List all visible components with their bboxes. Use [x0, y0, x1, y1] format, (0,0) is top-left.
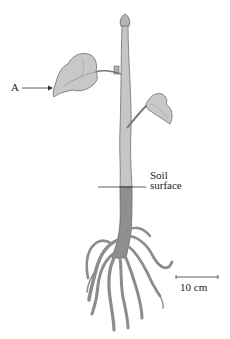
soil-label-line2: surface	[150, 180, 182, 190]
arrow-icon	[22, 86, 53, 91]
scale-bar	[176, 275, 218, 279]
scale-bar-label: 10 cm	[180, 282, 207, 293]
stem	[114, 14, 132, 187]
soil-surface-label: Soil surface	[150, 170, 182, 190]
leaf-right	[127, 93, 172, 128]
leaf-a	[53, 53, 121, 97]
leaf-label-a: A	[11, 82, 19, 93]
roots	[87, 187, 172, 330]
